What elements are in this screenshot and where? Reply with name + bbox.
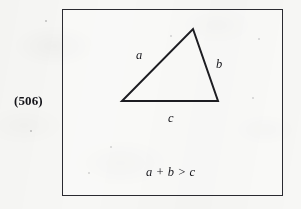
item-number-label: (506) (14, 92, 62, 110)
figure-scan: (506) a b c a + b > c (0, 0, 301, 209)
side-label-b: b (216, 57, 222, 71)
scan-speckle (45, 20, 47, 22)
side-label-a: a (136, 48, 142, 62)
triangle-inequality-expression: a + b > c (146, 164, 195, 180)
side-label-c: c (168, 111, 174, 125)
scan-speckle (30, 130, 32, 132)
